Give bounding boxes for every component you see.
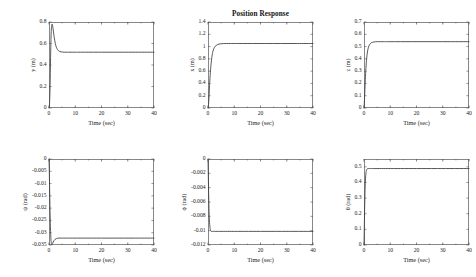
data-line bbox=[208, 159, 313, 231]
axes-frame bbox=[364, 22, 469, 108]
y-tick-label: 0.4 bbox=[355, 56, 362, 62]
axes-frame bbox=[49, 159, 154, 245]
x-tick-label: 30 bbox=[284, 111, 290, 117]
y-tick-label: -0.025 bbox=[32, 218, 46, 224]
y-tick-label: 0.1 bbox=[355, 93, 362, 99]
figure-canvas: 00.20.40.60.8010203040Time (sec)y (m)Pos… bbox=[0, 0, 476, 277]
data-line bbox=[49, 24, 154, 108]
x-tick-label: 10 bbox=[231, 248, 237, 254]
y-tick-label: 0.5 bbox=[355, 44, 362, 50]
x-axis-title: Time (sec) bbox=[364, 256, 469, 263]
y-tick-label: 0 bbox=[359, 242, 362, 248]
x-axis-title: Time (sec) bbox=[364, 119, 469, 126]
data-line bbox=[364, 42, 469, 108]
subplot-theta-pitch: 00.10.20.30.40.5010203040Time (sec)θ (ra… bbox=[364, 159, 469, 245]
subplot-z-position: 00.10.20.30.40.50.60.7010203040Time (sec… bbox=[364, 22, 469, 108]
y-tick-label: -0.01 bbox=[194, 228, 206, 234]
x-tick-label: 20 bbox=[258, 248, 264, 254]
y-tick-label: 0.1 bbox=[355, 227, 362, 233]
y-tick-label: 0.6 bbox=[355, 31, 362, 37]
y-tick-label: 0.3 bbox=[355, 195, 362, 201]
y-axis-tick-labels: 00.20.40.60.8 bbox=[0, 22, 49, 108]
y-axis-title-text: θ (rad) bbox=[344, 194, 351, 211]
y-tick-label: 0.4 bbox=[355, 180, 362, 186]
x-tick-label: 0 bbox=[207, 111, 210, 117]
x-tick-label: 40 bbox=[466, 248, 472, 254]
y-tick-label: 0.2 bbox=[40, 84, 47, 90]
y-tick-label: -0.02 bbox=[35, 205, 47, 211]
x-tick-label: 40 bbox=[151, 248, 157, 254]
y-tick-label: 0.2 bbox=[199, 93, 206, 99]
x-axis-title: Time (sec) bbox=[208, 256, 313, 263]
y-tick-label: 0 bbox=[44, 156, 47, 162]
y-tick-label: 1 bbox=[203, 44, 206, 50]
x-tick-label: 20 bbox=[414, 248, 420, 254]
axes-frame bbox=[208, 159, 313, 245]
y-tick-label: 0 bbox=[203, 105, 206, 111]
y-tick-label: 1.2 bbox=[199, 31, 206, 37]
x-tick-label: 10 bbox=[387, 111, 393, 117]
x-tick-label: 40 bbox=[151, 111, 157, 117]
data-line bbox=[49, 159, 154, 245]
y-axis-title-text: ψ (rad) bbox=[20, 193, 27, 210]
x-tick-label: 20 bbox=[414, 111, 420, 117]
chart-title: Position Response bbox=[208, 10, 313, 18]
y-tick-label: 0.5 bbox=[355, 164, 362, 170]
y-tick-label: 0 bbox=[44, 105, 47, 111]
axes-frame bbox=[49, 22, 154, 108]
x-tick-label: 0 bbox=[363, 111, 366, 117]
x-tick-label: 20 bbox=[99, 248, 105, 254]
x-tick-label: 30 bbox=[284, 248, 290, 254]
y-tick-label: -0.01 bbox=[35, 181, 47, 187]
x-tick-label: 30 bbox=[440, 111, 446, 117]
y-tick-label: 0 bbox=[203, 156, 206, 162]
y-axis-title-text: x (m) bbox=[188, 58, 195, 72]
y-tick-label: 0.4 bbox=[40, 62, 47, 68]
x-tick-label: 0 bbox=[207, 248, 210, 254]
y-axis-tick-labels: 00.20.40.60.811.21.4 bbox=[148, 22, 208, 108]
y-tick-label: -0.008 bbox=[191, 214, 205, 220]
y-tick-label: 0.8 bbox=[40, 19, 47, 25]
data-line bbox=[208, 43, 313, 108]
x-tick-label: 20 bbox=[99, 111, 105, 117]
y-tick-label: 0.4 bbox=[199, 81, 206, 87]
subplot-x-position: Position Response00.20.40.60.811.21.4010… bbox=[208, 22, 313, 108]
x-axis-title: Time (sec) bbox=[208, 119, 313, 126]
x-tick-label: 20 bbox=[258, 111, 264, 117]
x-tick-label: 0 bbox=[48, 111, 51, 117]
y-tick-label: 1.4 bbox=[199, 19, 206, 25]
y-tick-label: 0 bbox=[359, 105, 362, 111]
x-axis-title: Time (sec) bbox=[49, 256, 154, 263]
y-tick-label: -0.015 bbox=[32, 193, 46, 199]
x-tick-label: 30 bbox=[125, 248, 131, 254]
y-axis-tick-labels: 00.10.20.30.40.5 bbox=[304, 159, 364, 245]
x-tick-label: 10 bbox=[72, 248, 78, 254]
y-tick-label: -0.002 bbox=[191, 171, 205, 177]
y-tick-label: 0.7 bbox=[355, 19, 362, 25]
y-axis-tick-labels: 0-0.002-0.004-0.006-0.008-0.01-0.012 bbox=[148, 159, 208, 245]
x-tick-label: 0 bbox=[363, 248, 366, 254]
y-axis-title-text: y (m) bbox=[29, 58, 36, 72]
y-tick-label: 0.2 bbox=[355, 81, 362, 87]
data-line bbox=[364, 169, 469, 245]
x-tick-label: 10 bbox=[387, 248, 393, 254]
y-tick-label: -0.006 bbox=[191, 199, 205, 205]
subplot-y-position: 00.20.40.60.8010203040Time (sec)y (m) bbox=[49, 22, 154, 108]
y-tick-label: 0.3 bbox=[355, 68, 362, 74]
axes-frame bbox=[364, 159, 469, 245]
x-tick-label: 40 bbox=[466, 111, 472, 117]
y-tick-label: -0.03 bbox=[35, 230, 47, 236]
x-tick-label: 30 bbox=[440, 248, 446, 254]
x-tick-label: 40 bbox=[310, 111, 316, 117]
y-tick-label: 0.6 bbox=[199, 68, 206, 74]
y-tick-label: 0.8 bbox=[199, 56, 206, 62]
y-axis-tick-labels: 00.10.20.30.40.50.60.7 bbox=[304, 22, 364, 108]
y-axis-title-text: z (m) bbox=[344, 58, 351, 71]
x-axis-title: Time (sec) bbox=[49, 119, 154, 126]
y-tick-label: -0.012 bbox=[191, 242, 205, 248]
y-tick-label: -0.004 bbox=[191, 185, 205, 191]
x-tick-label: 40 bbox=[310, 248, 316, 254]
y-axis-title-text: ϕ (rad) bbox=[179, 194, 186, 211]
y-tick-label: 0.6 bbox=[40, 41, 47, 47]
axes-frame bbox=[208, 22, 313, 108]
